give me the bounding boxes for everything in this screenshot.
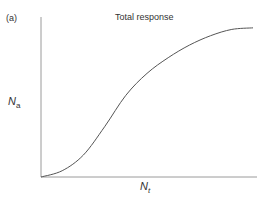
total-response-curve <box>41 28 253 177</box>
y-axis-label: Na <box>8 95 20 110</box>
panel-label: (a) <box>6 13 17 23</box>
chart-plot <box>0 0 267 198</box>
x-axis-label: Nt <box>140 180 150 195</box>
chart-title: Total response <box>115 12 174 22</box>
chart-figure: (a) Total response Na Nt <box>0 0 267 198</box>
